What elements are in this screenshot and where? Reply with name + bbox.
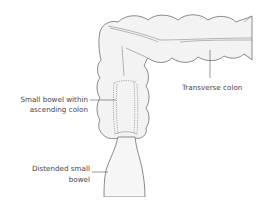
- label-small-bowel-line1: Small bowel within: [20, 95, 88, 104]
- intussusception-diagram: Transverse colon Small bowel within asce…: [0, 0, 268, 202]
- label-transverse-colon: Transverse colon: [181, 83, 242, 92]
- colon-outline: [97, 15, 252, 139]
- label-distended-line1: Distended small: [32, 164, 90, 173]
- label-distended-line2: bowel: [69, 175, 90, 184]
- distended-small-bowel: [100, 137, 150, 202]
- label-small-bowel-line2: ascending colon: [30, 105, 88, 114]
